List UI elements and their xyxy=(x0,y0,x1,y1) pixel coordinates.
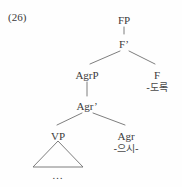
tree-node-vp: VP xyxy=(51,130,65,142)
vp-ellipsis-label: … xyxy=(52,170,64,181)
branch-Agrbar-to-Agr xyxy=(93,113,125,125)
branch-Agrbar-to-VP xyxy=(57,113,82,125)
vp-triangle-icon xyxy=(33,141,83,167)
tree-branch-lines xyxy=(57,27,155,125)
tree-node-agrbar: Agr’ xyxy=(76,100,97,112)
tree-node-label: Agr’ xyxy=(76,100,97,112)
tree-node-agrp: AgrP xyxy=(75,69,98,81)
tree-node-label: AgrP xyxy=(75,69,98,81)
tree-node-fp: FP xyxy=(118,14,130,26)
syntax-tree-figure: (26) FPF’AgrPF-도록Agr’VPAgr-으시- … xyxy=(0,0,182,187)
tree-node-label: Agr xyxy=(117,130,134,142)
tree-node-label: FP xyxy=(118,14,130,26)
branch-Fbar-to-F xyxy=(129,51,155,64)
tree-node-label: VP xyxy=(51,130,65,142)
tree-node-morpheme: -도록 xyxy=(146,82,168,94)
tree-node-agr: Agr-으시- xyxy=(113,130,138,155)
tree-node-label: F xyxy=(154,69,160,81)
tree-node-label: F’ xyxy=(119,38,129,50)
tree-node-f: F-도록 xyxy=(146,69,168,94)
branch-Fbar-to-AgrP xyxy=(90,51,120,64)
tree-node-fbar: F’ xyxy=(119,38,129,50)
tree-node-morpheme: -으시- xyxy=(113,143,138,155)
